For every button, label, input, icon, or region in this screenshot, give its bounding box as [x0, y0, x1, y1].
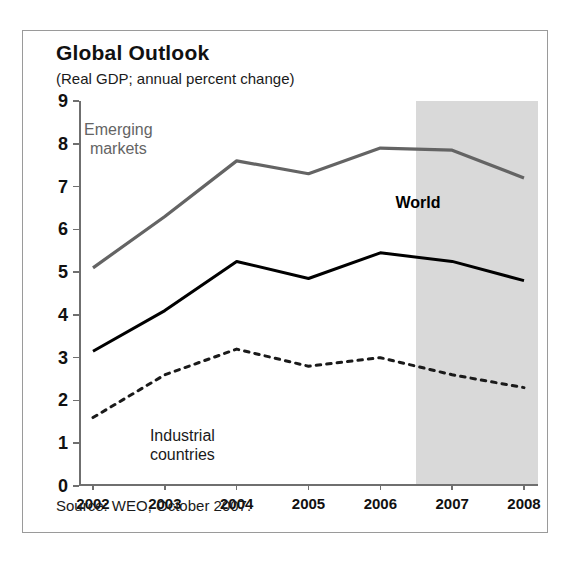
label-industrial-line2: countries: [150, 446, 215, 465]
chart-title: Global Outlook: [56, 41, 209, 65]
x-tick-label: 2005: [292, 495, 325, 512]
chart-subtitle: (Real GDP; annual percent change): [56, 70, 294, 87]
series-lines: [79, 101, 538, 486]
line-world: [93, 253, 524, 351]
source-note: Source: WEO, October 2007.: [56, 497, 251, 514]
label-emerging-line2: markets: [84, 140, 152, 159]
y-tick-label: 7: [58, 176, 68, 197]
plot-area: 0123456789 2002200320042005200620072008 …: [79, 101, 538, 486]
y-tick-label: 4: [58, 304, 68, 325]
x-tick-label: 2007: [435, 495, 468, 512]
y-tick-label: 1: [58, 433, 68, 454]
y-tick-label: 5: [58, 262, 68, 283]
line-emerging-markets: [93, 148, 524, 268]
x-tick-label: 2006: [364, 495, 397, 512]
y-tick-label: 2: [58, 390, 68, 411]
label-industrial-countries: Industrial countries: [150, 427, 215, 465]
y-tick-label: 0: [58, 476, 68, 497]
label-emerging-markets: Emerging markets: [84, 121, 152, 159]
x-tick-label: 2008: [507, 495, 540, 512]
label-emerging-line1: Emerging: [84, 121, 152, 140]
y-tick-label: 9: [58, 91, 68, 112]
y-tick-label: 8: [58, 133, 68, 154]
line-industrial-countries: [93, 349, 524, 417]
chart-figure: Global Outlook (Real GDP; annual percent…: [22, 30, 548, 533]
y-tick-label: 3: [58, 347, 68, 368]
label-industrial-line1: Industrial: [150, 427, 215, 446]
label-world: World: [395, 194, 440, 213]
y-tick-label: 6: [58, 219, 68, 240]
